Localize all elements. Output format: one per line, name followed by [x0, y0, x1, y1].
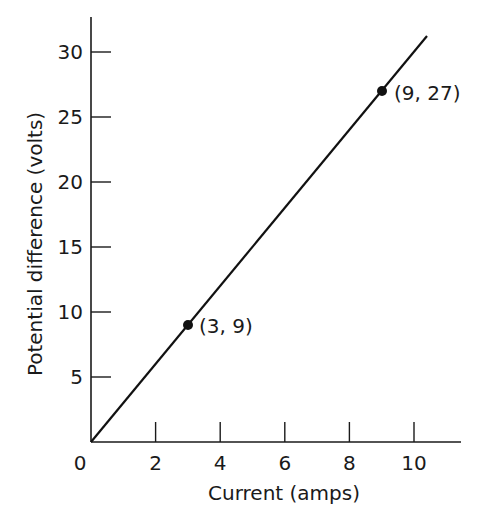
- y-tick-label: 15: [58, 235, 83, 259]
- x-ticks: [156, 422, 414, 442]
- x-tick-label: 6: [278, 451, 291, 475]
- x-tick-labels: 0 2 4 6 8 10: [74, 451, 427, 475]
- y-tick-label: 10: [58, 300, 83, 324]
- y-tick-label: 30: [58, 40, 83, 64]
- data-point-3-9: [183, 320, 193, 330]
- y-tick-labels: 5 10 15 20 25 30: [58, 40, 83, 389]
- y-ticks: [91, 52, 111, 377]
- x-tick-label: 10: [401, 451, 426, 475]
- origin-label: 0: [74, 451, 87, 475]
- y-tick-label: 25: [58, 105, 83, 129]
- x-tick-label: 2: [149, 451, 162, 475]
- y-axis-title: Potential difference (volts): [23, 112, 47, 376]
- point-label-9-27: (9, 27): [394, 81, 461, 105]
- x-axis-title: Current (amps): [208, 481, 360, 505]
- data-point-9-27: [377, 86, 387, 96]
- x-tick-label: 4: [214, 451, 227, 475]
- data-line: [91, 36, 427, 442]
- x-tick-label: 8: [343, 451, 356, 475]
- point-label-3-9: (3, 9): [199, 314, 253, 338]
- y-tick-label: 5: [70, 365, 83, 389]
- chart: 5 10 15 20 25 30 0 2 4 6 8 10 Current (a…: [0, 0, 482, 521]
- y-tick-label: 20: [58, 170, 83, 194]
